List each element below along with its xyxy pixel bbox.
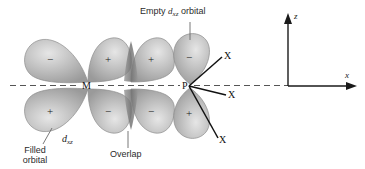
metal-upper-left-lobe xyxy=(25,39,88,82)
dxz-subscript: xz xyxy=(67,138,73,146)
sign-phosphorus-overlap-bottom: − xyxy=(148,106,154,117)
overlap-caption: Overlap xyxy=(110,149,142,159)
atom-label-phosphorus: P xyxy=(182,81,188,91)
z-axis-arrowhead xyxy=(284,13,292,24)
sign-p-orbital-top: − xyxy=(186,52,192,63)
metal-lower-left-lobe xyxy=(25,88,88,131)
x-axis-arrowhead xyxy=(346,82,357,90)
substituent-label-x-lower: X xyxy=(219,135,226,145)
filled-orbital-symbol-label: dxz xyxy=(62,133,73,146)
sign-phosphorus-overlap-top: + xyxy=(148,54,154,65)
sign-p-orbital-bottom: + xyxy=(186,108,192,119)
empty-orbital-caption: Empty dxz orbital xyxy=(140,6,205,17)
empty-orbital-subscript: xz xyxy=(173,10,179,18)
filled-orbital-caption: Filled orbital xyxy=(12,145,58,165)
sign-metal-bottom-right: − xyxy=(105,106,111,117)
x-axis-label: x xyxy=(345,70,349,80)
filled-orbital-line2: orbital xyxy=(12,155,58,165)
empty-orbital-word-orbital: orbital xyxy=(181,6,206,16)
sign-metal-top-left: − xyxy=(47,54,53,65)
atom-label-metal: M xyxy=(82,81,91,91)
filled-orbital-line1: Filled xyxy=(12,145,58,155)
orbital-overlap-figure: Empty dxz orbital dxz Filled orbital Ove… xyxy=(0,0,365,169)
substituent-label-x-upper: X xyxy=(224,51,231,61)
substituent-label-x-right: X xyxy=(228,90,235,100)
empty-orbital-symbol: d xyxy=(168,6,173,16)
sign-metal-bottom-left: + xyxy=(47,106,53,117)
sign-metal-top-right: + xyxy=(105,54,111,65)
z-axis-label: z xyxy=(294,11,298,21)
empty-orbital-word-empty: Empty xyxy=(140,6,166,16)
